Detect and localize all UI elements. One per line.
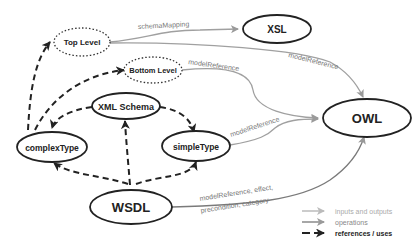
edge-wsdl-to-complex xyxy=(54,163,128,184)
label-model-reference-top: modelReference xyxy=(288,51,340,70)
svg-text:Bottom Level: Bottom Level xyxy=(129,66,177,75)
edge-xml-to-complex xyxy=(52,107,92,128)
svg-text:OWL: OWL xyxy=(352,111,382,126)
svg-text:Top Level: Top Level xyxy=(64,38,101,47)
label-schema-mapping: schemaMapping xyxy=(138,20,190,31)
label-model-reference-simple: modelReference xyxy=(229,115,280,138)
label-model-reference-bottom: modelReference xyxy=(188,58,240,72)
node-xml-schema: XML Schema xyxy=(92,93,160,119)
edge-wsdl-to-xml xyxy=(125,121,130,185)
edge-complex-to-top xyxy=(28,42,50,130)
svg-text:XML Schema: XML Schema xyxy=(98,102,155,112)
legend: inputs and outputs operations references… xyxy=(302,208,393,237)
legend-inputs-outputs: inputs and outputs xyxy=(335,208,393,216)
semantic-annotation-diagram: Top Level XSL Bottom Level XML Schema co… xyxy=(0,0,419,251)
legend-references: references / uses xyxy=(335,230,392,237)
edge-schema-mapping xyxy=(110,29,238,42)
node-owl: OWL xyxy=(323,99,411,137)
legend-operations: operations xyxy=(335,219,368,227)
node-xsl: XSL xyxy=(243,15,311,43)
node-complex-type: complexType xyxy=(17,132,87,162)
svg-text:WSDL: WSDL xyxy=(112,200,150,215)
svg-text:complexType: complexType xyxy=(25,143,79,153)
edge-bottom-to-owl xyxy=(182,69,318,118)
edge-wsdl-to-simple xyxy=(136,162,196,184)
svg-text:simpleType: simpleType xyxy=(173,142,219,152)
node-bottom-level: Bottom Level xyxy=(124,57,182,83)
node-top-level: Top Level xyxy=(54,28,110,56)
edge-xml-to-simple xyxy=(160,107,194,132)
node-simple-type: simpleType xyxy=(162,131,230,161)
svg-text:XSL: XSL xyxy=(267,24,286,35)
node-wsdl: WSDL xyxy=(90,190,172,224)
